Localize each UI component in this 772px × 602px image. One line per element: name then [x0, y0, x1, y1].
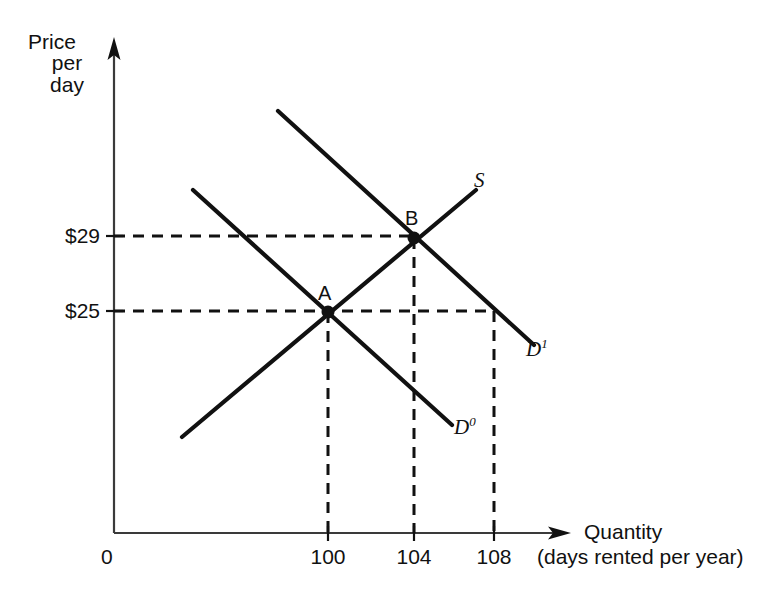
curve-label-demand1: D1: [526, 339, 548, 360]
curve-label-demand0-superscript: 0: [469, 414, 476, 429]
x-axis-subtitle: (days rented per year): [537, 546, 744, 567]
x-tick-label-100: 100: [288, 546, 368, 567]
y-axis-title: Price per day: [28, 31, 106, 95]
axes-group: [108, 37, 572, 540]
x-tick-label-104: 104: [374, 546, 454, 567]
y-axis-title-line-1: Price: [28, 31, 106, 52]
curve-label-demand0-text: D: [454, 415, 469, 439]
dashed-guides: [114, 236, 494, 533]
supply-demand-figure: Price per day $29 $25 100 104 108 0 Quan…: [0, 0, 772, 602]
chart-canvas: [0, 0, 772, 602]
x-axis-title: Quantity: [584, 521, 662, 542]
x-tick-label-108: 108: [454, 546, 534, 567]
point-label-a: A: [318, 283, 331, 303]
point-marker-b: [408, 232, 421, 245]
origin-label: 0: [101, 546, 113, 567]
curve-label-demand1-text: D: [526, 337, 541, 361]
curve-label-demand0: D0: [454, 417, 476, 438]
curve-label-supply: S: [474, 170, 485, 191]
y-tick-label-25: $25: [20, 300, 100, 321]
point-label-b: B: [405, 208, 418, 228]
y-axis-title-line-3: day: [28, 74, 106, 95]
curve-label-supply-text: S: [474, 168, 485, 192]
curve-label-demand1-superscript: 1: [541, 336, 548, 351]
y-tick-label-29: $29: [20, 225, 100, 246]
point-marker-a: [322, 306, 335, 319]
y-axis-title-line-2: per: [28, 52, 106, 73]
